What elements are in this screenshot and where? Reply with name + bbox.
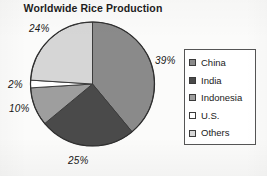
legend-swatch-icon <box>189 94 196 101</box>
rice-production-chart-figure: Worldwide Rice Production 39% 25% 10% 2%… <box>0 0 267 176</box>
legend-item-label: China <box>201 58 226 68</box>
pie-slice-group <box>30 22 154 146</box>
slice-label-us: 2% <box>8 79 23 90</box>
slice-label-others: 24% <box>29 23 50 34</box>
legend-item-label: India <box>201 76 222 86</box>
legend-swatch-icon <box>189 112 196 119</box>
slice-label-india: 25% <box>68 155 89 166</box>
pie-chart-svg <box>0 0 185 176</box>
legend-swatch-icon <box>189 59 196 66</box>
legend-item-label: U.S. <box>201 111 219 121</box>
legend-item-china[interactable]: China <box>189 55 253 71</box>
legend-swatch-icon <box>189 77 196 84</box>
slice-label-china: 39% <box>155 55 176 66</box>
legend-swatch-icon <box>189 130 196 137</box>
slice-label-indonesia: 10% <box>9 103 30 114</box>
pie-chart: 39% 25% 10% 2% 24% <box>0 0 185 176</box>
legend-item-label: Indonesia <box>201 93 242 103</box>
legend-item-us[interactable]: U.S. <box>189 108 253 124</box>
chart-legend: ChinaIndiaIndonesiaU.S.Others <box>184 49 256 145</box>
legend-item-india[interactable]: India <box>189 72 253 88</box>
legend-item-others[interactable]: Others <box>189 125 253 141</box>
legend-item-list: ChinaIndiaIndonesiaU.S.Others <box>189 54 253 142</box>
legend-item-label: Others <box>201 128 230 138</box>
legend-item-indonesia[interactable]: Indonesia <box>189 90 253 106</box>
